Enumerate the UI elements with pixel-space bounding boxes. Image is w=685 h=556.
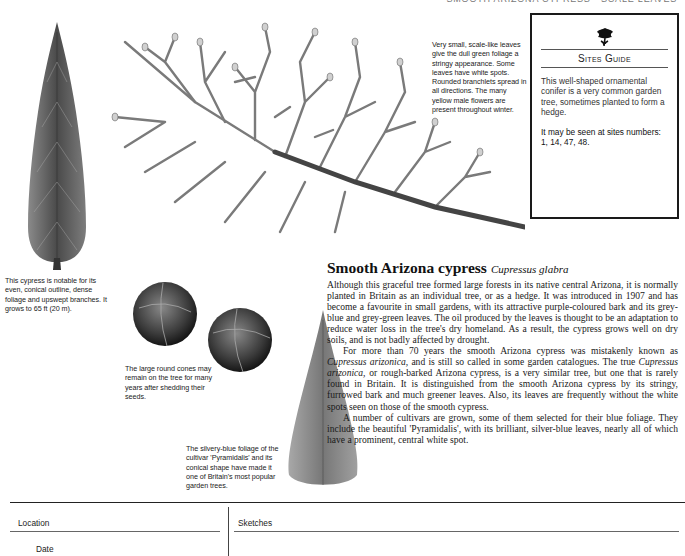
footer-divider xyxy=(228,507,229,556)
paragraph-2: For more than 70 years the smooth Arizon… xyxy=(327,345,678,411)
species-article: Smooth Arizona cypressCupressus glabra A… xyxy=(327,258,678,445)
sites-guide-box: Sites Guide This well-shaped ornamental … xyxy=(530,13,679,219)
footer-rule xyxy=(10,502,685,503)
latin-name: Cupressus glabra xyxy=(491,263,569,275)
sites-description: This well-shaped ornamental conifer is a… xyxy=(541,76,668,118)
sites-rule-bottom xyxy=(541,67,668,68)
location-field-line[interactable] xyxy=(10,531,220,532)
paragraph-1: Although this graceful tree formed large… xyxy=(327,279,678,345)
tree-caption: This cypress is notable for its even, co… xyxy=(5,276,115,313)
location-label: Location xyxy=(18,518,49,528)
round-cones-illustration xyxy=(125,278,285,378)
leaves-caption: Very small, scale-like leaves give the d… xyxy=(432,40,528,114)
article-body: Although this graceful tree formed large… xyxy=(327,279,678,445)
article-title: Smooth Arizona cypressCupressus glabra xyxy=(327,258,678,279)
sketches-label: Sketches xyxy=(238,518,272,528)
sites-numbers: It may be seen at sites numbers: 1, 14, … xyxy=(541,127,668,148)
date-label: Date xyxy=(36,544,54,554)
sites-guide-title: Sites Guide xyxy=(541,50,668,67)
oak-leaf-emblem-icon xyxy=(594,27,616,47)
common-name: Smooth Arizona cypress xyxy=(327,259,487,276)
tall-cypress-illustration xyxy=(22,22,92,272)
cones-caption: The large round cones may remain on the … xyxy=(125,364,220,401)
sketches-field-line[interactable] xyxy=(234,531,679,532)
pyramidalis-caption: The silvery-blue foliage of the cultivar… xyxy=(186,444,284,490)
running-head: Smooth Arizona Cypress · Scale Leaves xyxy=(447,0,678,4)
paragraph-3: A number of cultivars are grown, some of… xyxy=(327,412,678,445)
